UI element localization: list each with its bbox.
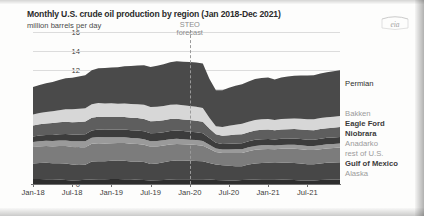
legend-label-alaska: Alaska (345, 169, 368, 178)
legend-label-gulf-of-mexico: Gulf of Mexico (345, 159, 398, 168)
scan-shadow-right (415, 0, 424, 216)
x-axis-tick-mark (111, 184, 112, 187)
plot-area (33, 32, 340, 184)
x-axis-tick-label: Jan-18 (21, 188, 44, 197)
x-axis-tick-label: Jan-20 (178, 188, 201, 197)
x-axis-tick-label: Jan-21 (257, 188, 280, 197)
chart-root: Monthly U.S. crude oil production by reg… (0, 0, 424, 216)
x-axis-tick-mark (151, 184, 152, 187)
eia-logo-icon: eia (380, 14, 410, 31)
x-axis-tick-label: Jul-18 (62, 188, 83, 197)
x-axis-tick-label: Jul-19 (140, 188, 161, 197)
x-axis-tick-mark (190, 184, 191, 187)
x-axis-tick-label: Jan-19 (100, 188, 123, 197)
steo-annotation-line2: forecast (177, 28, 203, 37)
legend-label-bakken: Bakken (345, 109, 371, 118)
x-axis-tick-label: Jul-21 (297, 188, 318, 197)
x-axis-tick-mark (72, 184, 73, 187)
legend-label-permian: Permian (345, 79, 374, 88)
x-axis-tick-mark (307, 184, 308, 187)
svg-text:eia: eia (390, 20, 399, 29)
x-axis-line (31, 184, 341, 185)
x-axis-tick-mark (268, 184, 269, 187)
legend-label-niobrara: Niobrara (345, 129, 377, 138)
x-axis-tick-label: Jul-20 (219, 188, 240, 197)
scan-shadow-top (0, 0, 424, 4)
legend-label-anadarko: Anadarko (345, 139, 378, 148)
x-axis-tick-mark (33, 184, 34, 187)
forecast-divider-line (190, 30, 191, 184)
page-title: Monthly U.S. crude oil production by reg… (27, 9, 281, 19)
scan-shadow-bottom (0, 208, 424, 216)
stacked-area-series (33, 32, 340, 184)
legend-label-rest-of-u-s-: rest of U.S. (345, 149, 383, 158)
x-axis-tick-mark (229, 184, 230, 187)
legend-label-eagle-ford: Eagle Ford (345, 119, 385, 128)
